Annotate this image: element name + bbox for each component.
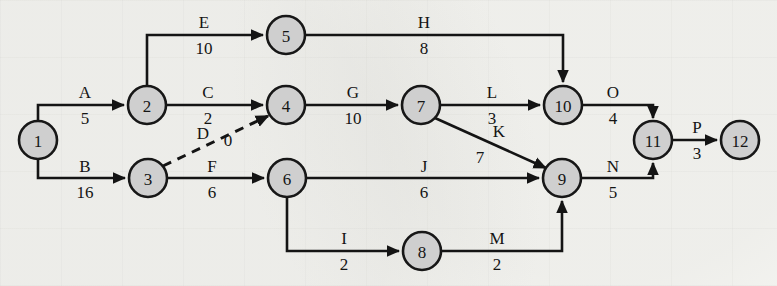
- edge-label-M-name: M: [489, 229, 504, 248]
- edge-label-G-duration: 10: [345, 109, 362, 128]
- edge-label-M-duration: 2: [493, 255, 502, 274]
- node-3-label: 3: [144, 170, 153, 189]
- node-4-label: 4: [282, 97, 291, 116]
- edge-label-A-duration: 5: [81, 109, 90, 128]
- node-2-label: 2: [143, 97, 152, 116]
- edge-path-H: [305, 35, 563, 82]
- edge-label-P-duration: 3: [693, 144, 702, 163]
- nodes-layer: 1 2 3 4 5 6 7: [19, 16, 759, 270]
- edge-label-O-name: O: [607, 83, 619, 102]
- edges-layer: [38, 35, 717, 251]
- node-1[interactable]: 1: [19, 121, 57, 159]
- edge-label-O-duration: 4: [609, 109, 618, 128]
- edge-label-L-name: L: [487, 83, 497, 102]
- edge-label-F-name: F: [207, 157, 216, 176]
- node-9-label: 9: [558, 170, 567, 189]
- network-diagram-svg: A 5 B 16 C 2 D 0 E 10 F 6 G 10 H 8 I 2 J…: [0, 0, 777, 286]
- node-12-label: 12: [732, 132, 749, 151]
- edge-label-D-duration: 0: [224, 131, 233, 150]
- edge-label-H-duration: 8: [420, 39, 429, 58]
- node-1-label: 1: [34, 132, 43, 151]
- edge-label-K-duration: 7: [476, 148, 485, 167]
- edge-path-O: [582, 105, 653, 118]
- node-4[interactable]: 4: [267, 86, 305, 124]
- node-7-label: 7: [417, 97, 426, 116]
- network-diagram-canvas: A 5 B 16 C 2 D 0 E 10 F 6 G 10 H 8 I 2 J…: [0, 0, 777, 286]
- edge-label-B-name: B: [79, 157, 90, 176]
- edge-label-D-name: D: [197, 124, 209, 143]
- edge-label-A-name: A: [79, 83, 92, 102]
- node-6[interactable]: 6: [268, 159, 306, 197]
- edge-label-C-name: C: [202, 83, 213, 102]
- edge-label-N-name: N: [607, 157, 619, 176]
- node-10[interactable]: 10: [544, 86, 582, 124]
- edge-label-G-name: G: [347, 83, 359, 102]
- edge-label-N-duration: 5: [609, 183, 618, 202]
- edge-label-L-duration: 3: [488, 109, 497, 128]
- node-3[interactable]: 3: [129, 159, 167, 197]
- node-8[interactable]: 8: [403, 232, 441, 270]
- node-12[interactable]: 12: [721, 121, 759, 159]
- edge-label-I-duration: 2: [340, 255, 349, 274]
- node-9[interactable]: 9: [543, 159, 581, 197]
- edge-label-J-name: J: [421, 157, 428, 176]
- edge-label-E-name: E: [199, 13, 209, 32]
- node-5[interactable]: 5: [267, 16, 305, 54]
- node-8-label: 8: [418, 243, 427, 262]
- edge-label-F-duration: 6: [208, 183, 217, 202]
- node-5-label: 5: [282, 27, 291, 46]
- node-11-label: 11: [645, 132, 661, 151]
- edge-label-P-name: P: [692, 118, 701, 137]
- node-11[interactable]: 11: [634, 121, 672, 159]
- edge-label-H-name: H: [418, 13, 430, 32]
- node-10-label: 10: [555, 97, 572, 116]
- edge-label-E-duration: 10: [196, 39, 213, 58]
- node-7[interactable]: 7: [402, 86, 440, 124]
- edge-label-J-duration: 6: [420, 183, 429, 202]
- edge-label-I-name: I: [341, 229, 347, 248]
- node-6-label: 6: [283, 170, 292, 189]
- edge-label-B-duration: 16: [77, 183, 94, 202]
- edge-labels-layer: A 5 B 16 C 2 D 0 E 10 F 6 G 10 H 8 I 2 J…: [77, 13, 702, 274]
- node-2[interactable]: 2: [128, 86, 166, 124]
